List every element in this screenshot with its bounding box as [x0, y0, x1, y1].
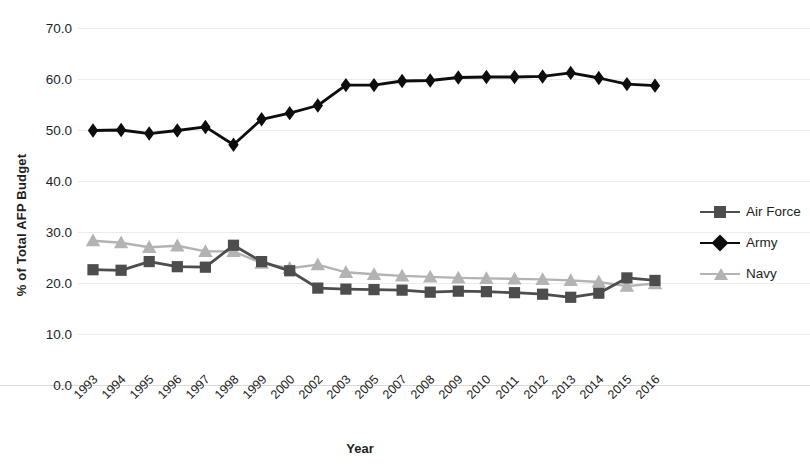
- legend-swatch: [700, 267, 740, 281]
- x-axis-tick-label: 2013: [549, 372, 579, 402]
- x-axis-tick-label: 2000: [268, 372, 298, 402]
- x-axis-tick-label: 1998: [212, 372, 242, 402]
- x-axis-title: Year: [300, 441, 420, 456]
- x-axis-tick-label: 2012: [521, 372, 551, 402]
- x-axis-tick-label: 2003: [324, 372, 354, 402]
- legend-item[interactable]: Army: [700, 227, 801, 258]
- x-axis-tick-label: 2015: [605, 372, 635, 402]
- x-axis-tick-label: 2010: [464, 372, 494, 402]
- x-axis-tick-label: 1994: [99, 372, 129, 402]
- x-axis-tick-label: 1999: [240, 372, 270, 402]
- x-axis-tick-label: 1993: [71, 372, 101, 402]
- legend-label: Army: [746, 235, 778, 250]
- legend-swatch: [700, 236, 740, 250]
- triangle-marker-icon: [714, 268, 728, 280]
- chart-legend: Air ForceArmyNavy: [700, 196, 801, 289]
- x-axis-tick-label: 2014: [577, 372, 607, 402]
- legend-label: Air Force: [746, 204, 801, 219]
- legend-label: Navy: [746, 266, 777, 281]
- x-axis-tick-label: 2016: [633, 372, 663, 402]
- x-axis-tick-label: 2002: [296, 372, 326, 402]
- x-axis-tick-label: 2011: [493, 373, 522, 402]
- x-axis-tick-label: 1997: [183, 372, 213, 402]
- square-marker-icon: [714, 206, 726, 218]
- x-axis-tick-label: 2005: [352, 372, 382, 402]
- x-axis-tick-label: 2008: [408, 372, 438, 402]
- x-axis-tick-label: 2009: [436, 372, 466, 402]
- legend-item[interactable]: Navy: [700, 258, 801, 289]
- legend-item[interactable]: Air Force: [700, 196, 801, 227]
- diamond-marker-icon: [712, 234, 729, 251]
- legend-swatch: [700, 205, 740, 219]
- x-axis-tick-label: 1995: [127, 372, 157, 402]
- x-axis-tick-label: 1996: [155, 372, 185, 402]
- x-axis-tick-labels: 1993199419951996199719981999200020022003…: [0, 0, 810, 464]
- x-axis-tick-label: 2007: [380, 372, 410, 402]
- chart-container: 70.060.050.040.030.020.010.00.0 % of Tot…: [0, 0, 810, 464]
